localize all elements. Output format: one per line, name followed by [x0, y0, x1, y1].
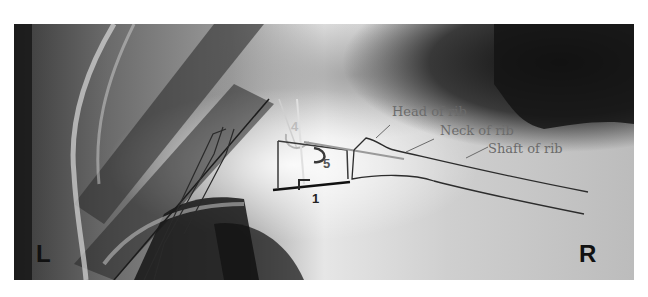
radiograph-figure: L R Head of rib Neck of rib Shaft of rib…: [14, 24, 634, 280]
angle-number-1: 1: [312, 192, 319, 205]
annotation-neck-of-rib: Neck of rib: [440, 124, 514, 137]
annotation-head-of-rib: Head of rib: [392, 105, 467, 118]
angle-number-5: 5: [323, 157, 330, 170]
angle-number-4: 4: [291, 120, 298, 133]
left-orientation-label: L: [36, 242, 51, 266]
annotation-shaft-of-rib: Shaft of rib: [488, 142, 563, 155]
right-orientation-label: R: [579, 242, 596, 266]
